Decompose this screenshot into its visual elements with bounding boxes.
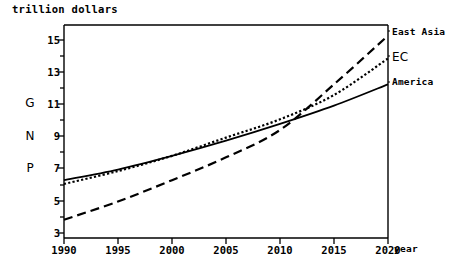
series-line-east-asia — [64, 36, 388, 220]
y-axis-ticks — [58, 40, 64, 233]
x-axis-ticks — [64, 238, 388, 244]
chart-plot-svg — [0, 0, 467, 269]
axis-frame — [64, 25, 388, 238]
gnp-projection-chart: trillion dollars G N P 15 13 11 9 7 5 3 … — [0, 0, 467, 269]
series-line-america — [64, 84, 388, 180]
series-line-ec — [64, 58, 388, 184]
